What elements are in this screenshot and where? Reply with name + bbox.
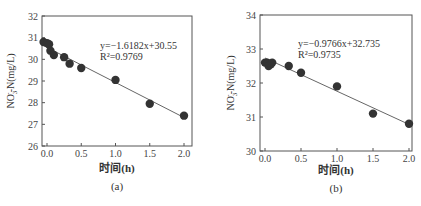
- data-point: [297, 69, 305, 77]
- chart-panel-b: 30313233340.00.51.01.52.0y=−0.9766x+32.7…: [224, 10, 415, 196]
- fit-r-squared: R²=0.9735: [298, 49, 341, 60]
- fit-r-squared: R²=0.9769: [100, 51, 143, 62]
- data-point: [60, 53, 68, 61]
- y-axis-label: NO3--N(mg/L): [4, 53, 19, 108]
- x-tick-label: 1.5: [144, 148, 157, 159]
- y-tick-label: 31: [246, 112, 256, 123]
- y-tick-label: 34: [246, 10, 256, 21]
- data-point: [180, 111, 188, 119]
- y-tick-label: 29: [28, 76, 38, 87]
- y-tick-label: 26: [28, 141, 38, 152]
- fit-equation: y=−0.9766x+32.735: [298, 38, 380, 49]
- data-point: [268, 58, 276, 66]
- data-point: [369, 109, 377, 117]
- x-tick-label: 2.0: [178, 148, 191, 159]
- fit-equation: y=−1.6182x+30.55: [100, 40, 177, 51]
- data-point: [111, 76, 119, 84]
- figure: 262728293031320.00.51.01.52.0y=−1.6182x+…: [0, 0, 421, 206]
- panel-label: (a): [111, 180, 124, 193]
- data-point: [65, 59, 73, 67]
- x-tick-label: 1.5: [367, 153, 380, 164]
- panel-label: (b): [330, 182, 343, 195]
- y-tick-label: 28: [28, 97, 38, 108]
- data-point: [50, 51, 58, 59]
- x-axis-label: 时间(h): [318, 163, 354, 177]
- x-tick-label: 0.0: [259, 153, 272, 164]
- x-tick-label: 0.5: [75, 148, 88, 159]
- x-tick-label: 0.5: [295, 153, 308, 164]
- y-tick-label: 31: [28, 32, 38, 43]
- data-point: [405, 120, 413, 128]
- data-point: [146, 100, 154, 108]
- y-axis-label: NO3--N(mg/L): [224, 55, 239, 110]
- chart-panel-a: 262728293031320.00.51.01.52.0y=−1.6182x+…: [4, 11, 192, 194]
- y-tick-label: 30: [28, 54, 38, 65]
- data-point: [77, 64, 85, 72]
- x-tick-label: 1.0: [109, 148, 122, 159]
- x-tick-label: 0.0: [41, 148, 54, 159]
- x-tick-label: 1.0: [331, 153, 344, 164]
- y-tick-label: 32: [28, 11, 38, 22]
- y-tick-label: 27: [28, 119, 38, 130]
- x-tick-label: 2.0: [403, 153, 416, 164]
- y-tick-label: 32: [246, 78, 256, 89]
- x-axis-label: 时间(h): [99, 161, 135, 175]
- y-tick-label: 33: [246, 44, 256, 55]
- y-tick-label: 30: [246, 146, 256, 157]
- data-point: [285, 62, 293, 70]
- data-point: [333, 82, 341, 90]
